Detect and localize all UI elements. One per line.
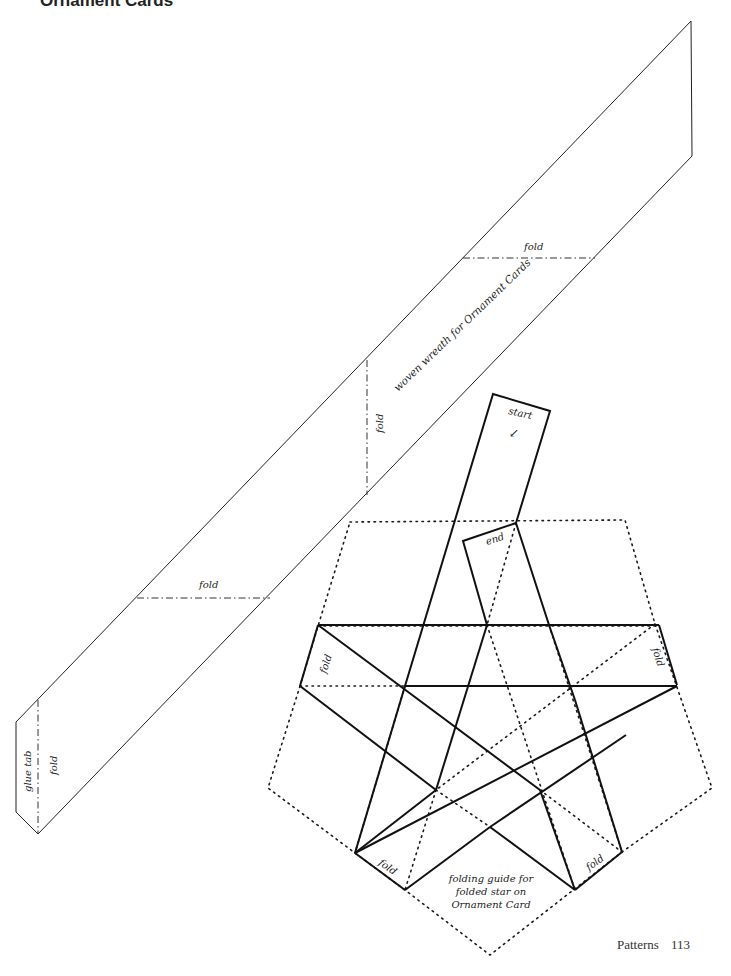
page-number: 113: [671, 937, 690, 952]
page-footer: Patterns113: [617, 937, 690, 953]
wreath-strip: [16, 21, 692, 834]
fold-label-top: fold: [523, 241, 543, 252]
start-label: start: [508, 405, 535, 421]
fold-label-lower: fold: [198, 579, 218, 590]
strip-edge: [355, 790, 436, 853]
strip-edge: [355, 686, 405, 853]
start-strip: [405, 394, 550, 686]
wreath-title: woven wreath for Ornament Cards: [391, 256, 533, 394]
strip-edge: [436, 625, 487, 790]
glue-tab-label: glue tab: [22, 750, 33, 792]
strip-edge: [300, 625, 318, 686]
wreath-outline: [16, 21, 692, 834]
star-caption-line2: folded star on: [455, 886, 526, 897]
strip-edge: [549, 625, 575, 700]
strip-edge: [318, 625, 540, 790]
footer-section: Patterns: [617, 937, 659, 952]
fold-label-star-bottom-right: fold: [583, 852, 606, 873]
strip-edge: [355, 853, 405, 890]
fold-label-star-left: fold: [317, 653, 334, 676]
dotted-line: [436, 790, 490, 827]
dotted-line: [405, 790, 436, 890]
fold-label-tab: fold: [48, 756, 59, 776]
end-strip: [463, 523, 549, 625]
strip-edge: [300, 686, 436, 790]
dotted-line: [436, 624, 655, 790]
star-solid-strip: [300, 394, 712, 890]
star-caption-line3: Ornament Card: [451, 899, 530, 910]
dotted-line: [540, 790, 622, 852]
strip-edge: [575, 700, 622, 852]
fold-label-vertical: fold: [374, 414, 385, 434]
pattern-diagram: fold woven wreath for Ornament Cards fol…: [0, 0, 731, 976]
star-caption-line1: folding guide for: [448, 873, 535, 884]
strip-edge: [540, 790, 575, 890]
fold-label-star-bottom-left: fold: [376, 856, 399, 877]
start-arrow-icon: ↙: [509, 426, 519, 440]
